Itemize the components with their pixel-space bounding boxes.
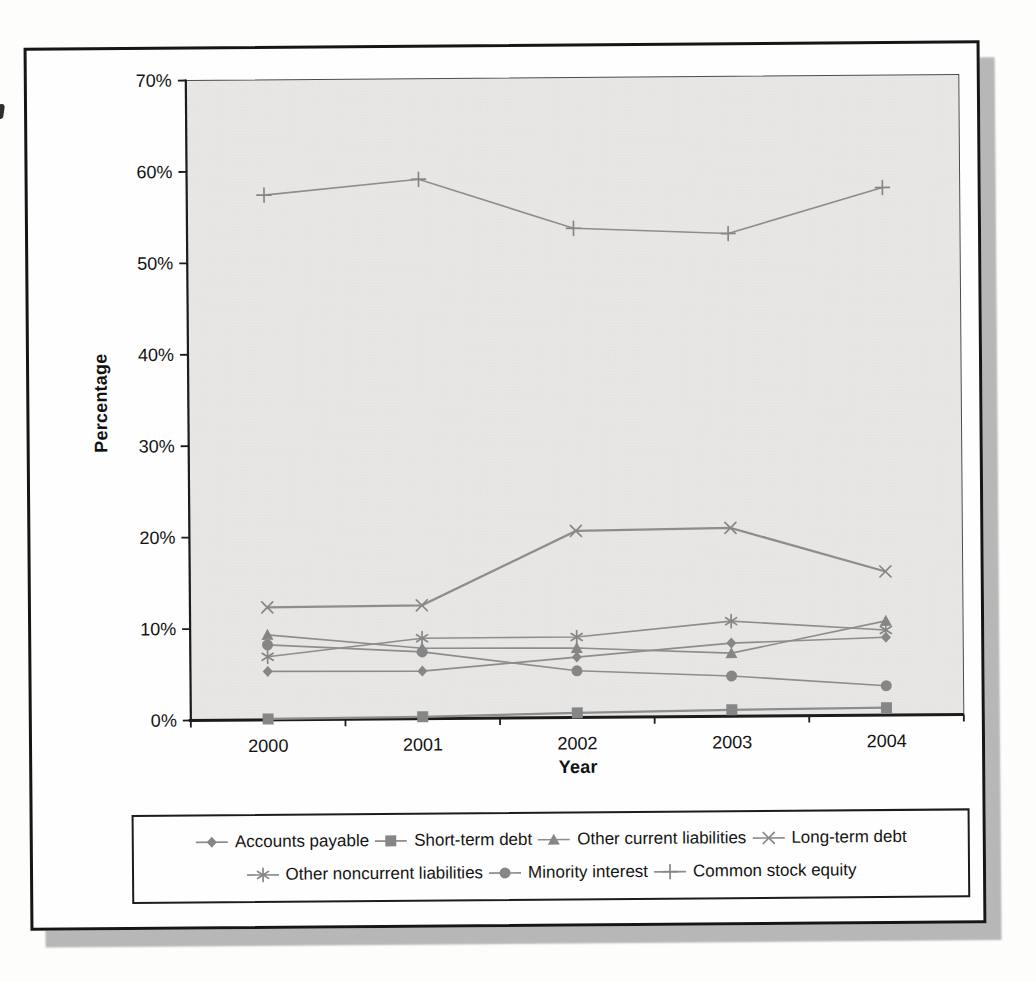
y-tick-label-20: 20%: [139, 528, 175, 548]
diamond-marker-icon: [195, 834, 229, 850]
legend-label-minority-interest: Minority interest: [528, 862, 648, 883]
x-tick-label-2004: 2004: [867, 731, 907, 751]
x-tick-label-2001: 2001: [403, 734, 443, 754]
circle-marker-icon-2000: [262, 639, 273, 650]
x-tick-label-2000: 2000: [248, 736, 288, 756]
legend-item-accounts-payable: Accounts payable: [195, 831, 369, 852]
figure-frame: 0%10%20%30%40%50%60%70%20002001200220032…: [24, 40, 987, 930]
square-marker-icon-2004: [881, 702, 892, 713]
square-marker-icon-2003: [726, 704, 737, 715]
circle-marker-icon-2002: [571, 665, 582, 676]
x-tick-label-2003: 2003: [712, 732, 752, 752]
line-chart-canvas: 0%10%20%30%40%50%60%70%20002001200220032…: [27, 43, 984, 927]
legend-label-short-term-debt: Short-term debt: [414, 830, 532, 851]
legend-label-accounts-payable: Accounts payable: [235, 831, 369, 852]
square-marker-icon-2002: [572, 707, 583, 718]
y-tick-label-60: 60%: [136, 162, 172, 182]
y-tick-label-50: 50%: [137, 253, 173, 273]
x-tick-label-2002: 2002: [557, 733, 597, 753]
x-axis-title: Year: [559, 757, 598, 778]
legend-row-1: Accounts payableShort-term debtOther cur…: [195, 827, 907, 853]
legend-item-short-term-debt: Short-term debt: [374, 830, 532, 851]
y-tick-label-70: 70%: [136, 71, 172, 91]
legend-label-common-stock-equity: Common stock equity: [693, 860, 857, 881]
scan-artifact-mark: [0, 104, 5, 120]
plot-area: [186, 74, 964, 720]
asterisk-marker-icon: [246, 867, 280, 883]
circle-marker-icon-2003: [726, 670, 737, 681]
x-marker-icon: [751, 830, 785, 846]
y-tick-label-10: 10%: [140, 619, 176, 639]
circle-marker-icon-2001: [417, 646, 428, 657]
circle-marker-icon: [488, 865, 522, 881]
square-marker-icon: [374, 833, 408, 849]
square-marker-icon-2000: [263, 713, 274, 724]
legend-item-minority-interest: Minority interest: [488, 862, 648, 883]
legend-box: Accounts payableShort-term debtOther cur…: [132, 808, 971, 904]
legend-label-other-current-liabilities: Other current liabilities: [577, 828, 746, 849]
y-tick-label-30: 30%: [139, 436, 175, 456]
scanned-page: 0%10%20%30%40%50%60%70%20002001200220032…: [0, 0, 1036, 982]
legend-item-long-term-debt: Long-term debt: [751, 827, 906, 848]
legend-label-long-term-debt: Long-term debt: [791, 827, 906, 848]
legend-item-other-noncurrent-liabilities: Other noncurrent liabilities: [246, 863, 484, 885]
legend-row-2: Other noncurrent liabilitiesMinority int…: [246, 860, 857, 885]
y-tick-label-0: 0%: [151, 711, 177, 731]
circle-marker-icon-2004: [881, 680, 892, 691]
legend-item-other-current-liabilities: Other current liabilities: [537, 828, 746, 850]
square-marker-icon-2001: [417, 711, 428, 722]
legend-item-common-stock-equity: Common stock equity: [653, 860, 857, 882]
triangle-marker-icon: [537, 831, 571, 847]
plus-marker-icon: [653, 864, 687, 880]
y-axis-title: Percentage: [90, 354, 112, 453]
legend-label-other-noncurrent-liabilities: Other noncurrent liabilities: [286, 863, 484, 885]
y-tick-label-40: 40%: [138, 345, 174, 365]
